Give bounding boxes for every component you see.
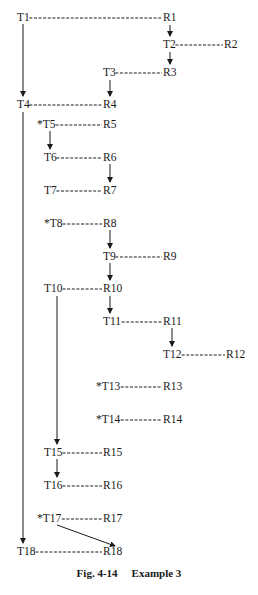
node-t14: *T14: [96, 413, 120, 425]
node-t12: T12: [163, 348, 182, 360]
node-t6: T6: [44, 151, 57, 163]
node-t18: T18: [17, 545, 36, 557]
node-t15: T15: [44, 446, 63, 458]
diagram-canvas: [0, 0, 258, 595]
node-r17: R17: [103, 512, 122, 524]
node-r14: R14: [163, 413, 182, 425]
node-r4: R4: [103, 98, 116, 110]
node-t10: T10: [44, 282, 63, 294]
node-t7: T7: [44, 184, 57, 196]
node-r15: R15: [103, 446, 122, 458]
node-r5: R5: [103, 118, 116, 130]
node-t5: *T5: [37, 118, 56, 130]
node-r8: R8: [103, 217, 116, 229]
node-t1: T1: [17, 11, 30, 23]
node-t3: T3: [103, 66, 116, 78]
node-r11: R11: [163, 315, 182, 327]
node-t13: *T13: [96, 380, 120, 392]
figure-caption: Fig. 4-14Example 3: [0, 567, 258, 579]
figure-number: Fig. 4-14: [77, 567, 118, 579]
node-r3: R3: [163, 66, 176, 78]
figure-title: Example 3: [132, 567, 182, 579]
node-r18: R18: [103, 545, 122, 557]
node-t17: *T17: [37, 512, 61, 524]
node-r1: R1: [163, 11, 176, 23]
node-t16: T16: [44, 479, 63, 491]
node-t4: T4: [17, 98, 30, 110]
node-r6: R6: [103, 151, 116, 163]
node-r9: R9: [163, 250, 176, 262]
node-r10: R10: [103, 282, 122, 294]
node-r12: R12: [226, 348, 245, 360]
node-r16: R16: [103, 479, 122, 491]
node-r2: R2: [224, 38, 237, 50]
node-t2: T2: [163, 38, 176, 50]
node-t11: T11: [103, 315, 121, 327]
node-r13: R13: [163, 380, 182, 392]
node-t9: T9: [103, 250, 116, 262]
node-r7: R7: [103, 184, 116, 196]
arrow-T17-R18: [57, 525, 115, 546]
node-t8: *T8: [44, 217, 63, 229]
